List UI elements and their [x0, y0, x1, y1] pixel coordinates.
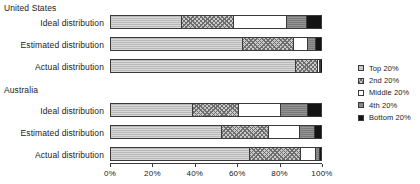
- legend-item-fourth[interactable]: 4th 20%: [358, 99, 420, 111]
- bar-segment-bottom: [316, 38, 321, 50]
- axis-tick: [322, 164, 323, 167]
- stacked-bar: [110, 37, 322, 51]
- row-label: Actual distribution: [4, 62, 104, 72]
- bar-segment-top: [111, 16, 182, 28]
- legend-label: Bottom 20%: [369, 113, 411, 122]
- stacked-bar: [110, 15, 322, 29]
- axis-tick-label: 0%: [104, 169, 116, 178]
- legend-swatch-fourth-icon: [358, 102, 364, 108]
- legend-swatch-top-icon: [358, 65, 364, 71]
- axis-tick: [195, 164, 196, 167]
- stacked-bar: [110, 125, 322, 139]
- legend-swatch-second-icon: [358, 78, 364, 84]
- legend-label: Middle 20%: [369, 88, 409, 97]
- axis-tick: [152, 164, 153, 167]
- bar-segment-middle: [234, 16, 288, 28]
- axis-tick-label: 100%: [311, 169, 332, 178]
- chart-legend: Top 20%2nd 20%Middle 20%4th 20%Bottom 20…: [358, 62, 420, 124]
- bar-segment-second: [222, 126, 268, 138]
- row-label: Estimated distribution: [4, 128, 104, 138]
- bar-segment-middle: [269, 126, 301, 138]
- legend-swatch-middle-icon: [358, 90, 364, 96]
- axis-tick-label: 80%: [271, 169, 288, 178]
- bar-segment-top: [111, 38, 243, 50]
- row-label: Actual distribution: [4, 150, 104, 160]
- bar-segment-second: [243, 38, 293, 50]
- bar-segment-bottom: [307, 16, 321, 28]
- axis-tick-label: 20%: [144, 169, 161, 178]
- legend-label: Top 20%: [369, 64, 399, 73]
- legend-item-second[interactable]: 2nd 20%: [358, 74, 420, 86]
- axis-tick: [280, 164, 281, 167]
- stacked-bar-chart: United StatesIdeal distributionEstimated…: [0, 0, 420, 184]
- stacked-bar: [110, 147, 322, 161]
- row-label: Estimated distribution: [4, 40, 104, 50]
- bar-segment-bottom: [320, 148, 321, 160]
- stacked-bar: [110, 59, 322, 73]
- legend-item-middle[interactable]: Middle 20%: [358, 87, 420, 99]
- bar-segment-top: [111, 126, 222, 138]
- axis-tick-label: 60%: [229, 169, 246, 178]
- bar-segment-bottom: [315, 126, 321, 138]
- legend-item-bottom[interactable]: Bottom 20%: [358, 112, 420, 124]
- group-title-united-states: United States: [4, 3, 56, 13]
- bar-segment-fourth: [281, 104, 308, 116]
- legend-label: 2nd 20%: [369, 76, 399, 85]
- legend-item-top[interactable]: Top 20%: [358, 62, 420, 74]
- row-label: Ideal distribution: [4, 106, 104, 116]
- axis-tick: [110, 164, 111, 167]
- plot-area: [110, 0, 322, 184]
- bar-segment-middle: [239, 104, 281, 116]
- bar-segment-fourth: [287, 16, 307, 28]
- bar-segment-second: [296, 60, 318, 72]
- bar-segment-fourth: [300, 126, 315, 138]
- bar-segment-bottom: [308, 104, 321, 116]
- bar-segment-second: [182, 16, 233, 28]
- axis-line: [110, 163, 322, 164]
- bar-segment-top: [111, 148, 250, 160]
- bar-segment-fourth: [308, 38, 315, 50]
- bar-segment-top: [111, 104, 193, 116]
- bar-segment-second: [193, 104, 239, 116]
- row-label: Ideal distribution: [4, 18, 104, 28]
- legend-label: 4th 20%: [369, 101, 397, 110]
- group-title-australia: Australia: [4, 85, 38, 95]
- stacked-bar: [110, 103, 322, 117]
- bar-segment-middle: [294, 38, 309, 50]
- bar-segment-middle: [301, 148, 316, 160]
- legend-swatch-bottom-icon: [358, 115, 364, 121]
- axis-tick: [237, 164, 238, 167]
- bar-segment-top: [111, 60, 296, 72]
- bar-segment-second: [250, 148, 301, 160]
- axis-tick-label: 40%: [186, 169, 203, 178]
